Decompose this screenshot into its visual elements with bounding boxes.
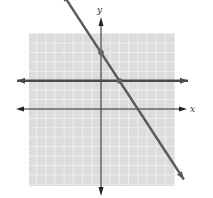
point-y-intercept: [98, 50, 104, 56]
y-axis-arrow-down-icon: [99, 187, 104, 196]
x-axis-arrow-right-icon: [179, 107, 187, 112]
point-intersection: [117, 78, 123, 84]
y-axis-arrow-up-icon: [99, 17, 104, 26]
coordinate-graph: x y: [0, 0, 213, 198]
x-axis-label: x: [190, 104, 195, 114]
x-axis-arrow-left-icon: [16, 107, 24, 112]
line-arrow-end-icon: [180, 78, 188, 84]
line-arrow-start-icon: [17, 78, 25, 84]
y-axis-label: y: [96, 5, 103, 15]
